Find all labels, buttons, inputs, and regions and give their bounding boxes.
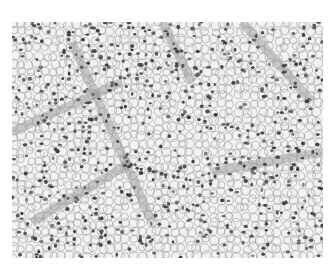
tissue-image — [12, 22, 323, 258]
histology-micrograph — [12, 22, 323, 258]
